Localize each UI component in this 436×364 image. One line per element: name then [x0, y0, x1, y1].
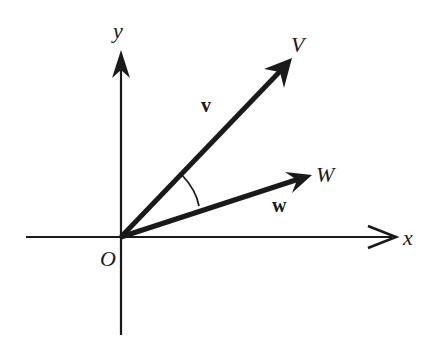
vector-diagram: y x O V W v w: [0, 0, 436, 364]
x-axis: [26, 226, 396, 248]
point-w-label: W: [316, 162, 336, 187]
x-axis-label: x: [402, 225, 413, 250]
point-v-label: V: [291, 32, 307, 57]
vector-w-label: w: [272, 194, 287, 216]
vector-v-label: v: [201, 94, 211, 116]
origin-label: O: [100, 246, 116, 271]
y-axis-label: y: [111, 18, 123, 43]
y-axis: [112, 50, 130, 335]
angle-arc: [182, 175, 199, 206]
